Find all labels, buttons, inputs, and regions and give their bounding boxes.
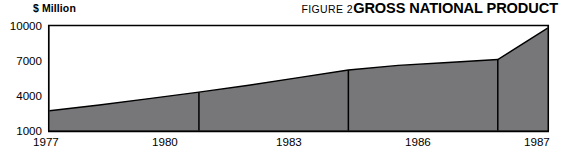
x-tick-label-1986: 1986	[405, 135, 431, 148]
y-tick-label-4000: 4000	[0, 89, 42, 102]
area-series-gross-national-product	[50, 28, 548, 130]
x-tick-label-1977: 1977	[33, 135, 59, 148]
y-tick-label-7000: 7000	[0, 54, 42, 67]
y-tick-label-10000: 10000	[0, 19, 42, 32]
x-tick-label-1987: 1987	[524, 135, 550, 148]
figure-container: $ Million FIGURE 2 GROSS NATIONAL PRODUC…	[0, 0, 561, 158]
x-tick-label-1983: 1983	[276, 135, 302, 148]
plot-area: 10000 7000 4000 1000 1977 1980 1983 1986…	[0, 0, 561, 158]
x-tick-label-1980: 1980	[152, 135, 178, 148]
